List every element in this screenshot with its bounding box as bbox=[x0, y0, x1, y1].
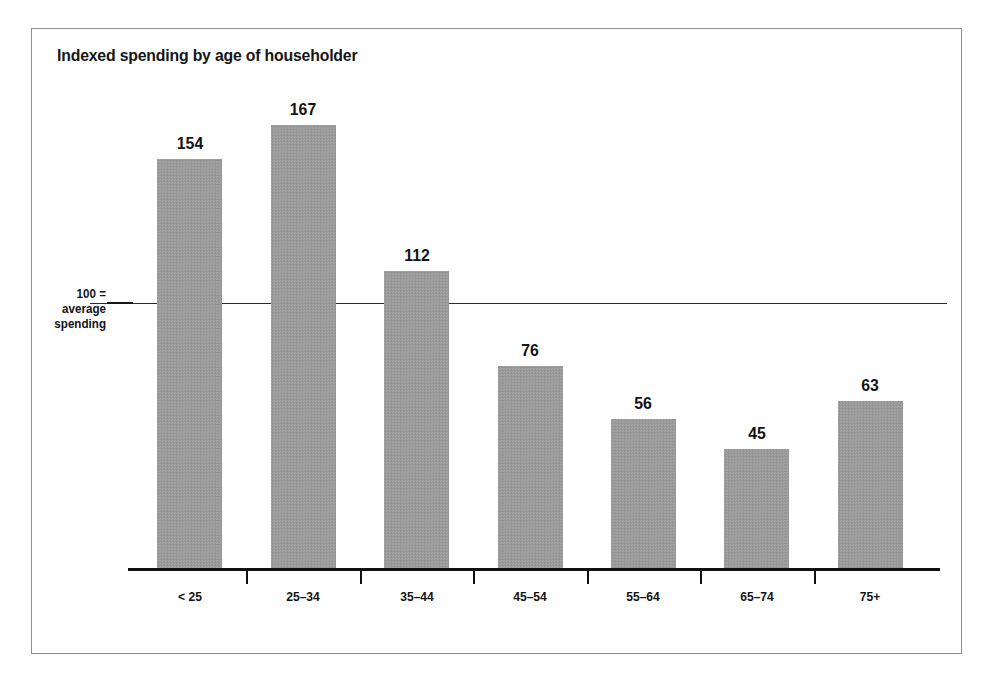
x-axis-label-1: < 25 bbox=[178, 590, 202, 603]
x-axis-label-4: 45–54 bbox=[513, 590, 547, 603]
bar-value-label: 167 bbox=[290, 101, 316, 118]
bar-value-label: 63 bbox=[861, 377, 879, 394]
x-axis-label-2: 25–34 bbox=[286, 590, 320, 603]
bar-rect bbox=[384, 271, 449, 568]
x-axis-tick bbox=[700, 571, 702, 584]
reference-line-label: 100 = average spending bbox=[37, 287, 106, 332]
x-axis-tick bbox=[814, 571, 816, 584]
bar-5: 56 bbox=[611, 419, 676, 568]
bar-rect bbox=[838, 401, 903, 568]
bar-value-label: 76 bbox=[521, 342, 539, 359]
bar-rect bbox=[724, 449, 789, 568]
reference-line-leader bbox=[107, 302, 133, 304]
bar-1: 154 bbox=[157, 159, 222, 568]
figure-frame: Indexed spending by age of householder 1… bbox=[31, 28, 962, 654]
x-axis-label-7: 75+ bbox=[860, 590, 881, 603]
x-axis-label-5: 55–64 bbox=[627, 590, 661, 603]
bar-rect bbox=[498, 366, 563, 568]
x-axis-label-3: 35–44 bbox=[400, 590, 434, 603]
bar-value-label: 154 bbox=[177, 135, 203, 152]
reference-label-line-3: spending bbox=[37, 317, 106, 332]
bar-rect bbox=[271, 125, 336, 568]
plot-area: 100 = average spending 15416711276564563… bbox=[32, 29, 963, 655]
x-axis-label-6: 65–74 bbox=[740, 590, 774, 603]
x-axis-tick bbox=[587, 571, 589, 584]
reference-label-line-2: average bbox=[37, 302, 106, 317]
bar-rect bbox=[611, 419, 676, 568]
x-axis-tick bbox=[246, 571, 248, 584]
bar-2: 167 bbox=[271, 125, 336, 568]
x-axis-tick bbox=[473, 571, 475, 584]
bar-7: 63 bbox=[838, 401, 903, 568]
reference-label-line-1: 100 = bbox=[37, 287, 106, 302]
bar-4: 76 bbox=[498, 366, 563, 568]
bar-value-label: 56 bbox=[635, 395, 653, 412]
bar-value-label: 112 bbox=[404, 247, 430, 264]
x-axis-tick bbox=[360, 571, 362, 584]
bar-3: 112 bbox=[384, 271, 449, 568]
bar-rect bbox=[157, 159, 222, 568]
bar-6: 45 bbox=[724, 449, 789, 568]
x-axis-baseline bbox=[128, 568, 940, 571]
bar-value-label: 45 bbox=[748, 425, 766, 442]
